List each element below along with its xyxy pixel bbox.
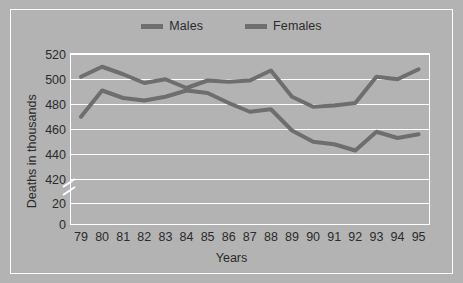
plot-area-wrap [70, 53, 430, 225]
series-layer [70, 53, 430, 225]
x-axis-ticks: 7980818283848586878889909192939495 [70, 231, 430, 247]
y-axis-title: Deaths in thousands [26, 76, 39, 226]
chart-figure: Males Females 520 500 480 460 440 420 20… [0, 0, 463, 283]
legend-entry-males: Males [141, 20, 203, 33]
chart-legend: Males Females [0, 20, 463, 33]
legend-entry-females: Females [245, 20, 322, 33]
line-swatch-icon [141, 24, 163, 29]
x-tick-95: 95 [406, 231, 432, 244]
legend-label-males: Males [169, 20, 203, 33]
y-axis-title-wrap: Deaths in thousands [0, 53, 40, 225]
legend-label-females: Females [273, 20, 322, 33]
line-swatch-icon [245, 24, 267, 29]
series-line-females [81, 91, 419, 151]
x-axis-title: Years [0, 252, 463, 265]
